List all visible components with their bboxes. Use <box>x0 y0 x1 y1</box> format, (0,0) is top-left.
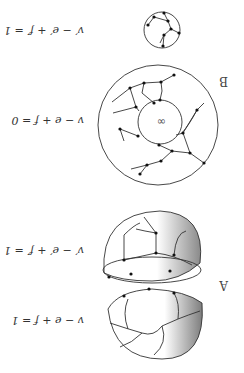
equation-disk: v′ − e′ + f′ = 1 <box>4 24 84 37</box>
panel-label-a: A <box>219 278 229 292</box>
equation-annulus: v − e + f = 0 <box>12 114 84 127</box>
hemisphere-dome <box>103 211 201 283</box>
svg-text:v′ − e′ + f′ = 1: v′ − e′ + f′ = 1 <box>4 24 84 37</box>
infinity-symbol: ∞ <box>157 115 166 128</box>
svg-text:v − e + f = 1: v − e + f = 1 <box>12 314 84 327</box>
hemisphere-bowl <box>108 287 202 359</box>
annulus-graph: ∞ <box>98 65 218 185</box>
svg-text:v′ − e′ + f′ = 1: v′ − e′ + f′ = 1 <box>4 244 84 257</box>
euler-characteristic-figure: B ∞ <box>0 0 244 373</box>
disk-circle <box>144 12 180 48</box>
equation-dome: v′ − e′ + f′ = 1 <box>4 244 84 257</box>
disk-graph <box>144 11 181 48</box>
svg-text:B: B <box>219 74 228 88</box>
svg-text:v − e + f = 0: v − e + f = 0 <box>12 114 84 127</box>
panel-label-b: B <box>219 74 228 88</box>
svg-text:A: A <box>219 278 229 292</box>
equation-bowl: v − e + f = 1 <box>12 314 84 327</box>
